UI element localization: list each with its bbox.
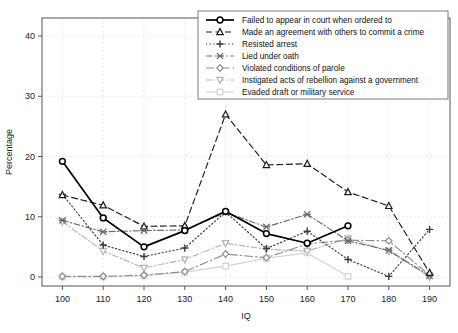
- series-2: [59, 191, 433, 280]
- data-point-marker: [345, 189, 351, 195]
- legend-label: Resisted arrest: [242, 40, 298, 49]
- data-point-marker: [217, 89, 223, 95]
- data-point-marker: [100, 202, 106, 208]
- chart-legend: Failed to appear in court when ordered t…: [198, 11, 448, 99]
- y-tick-label: 30: [25, 91, 35, 101]
- x-axis-title: IQ: [241, 311, 251, 321]
- series-line: [62, 194, 429, 276]
- x-tick-label: 120: [136, 294, 151, 304]
- x-tick-label: 100: [55, 294, 70, 304]
- legend-label: Failed to appear in court when ordered t…: [242, 16, 392, 25]
- data-point-marker: [264, 231, 270, 237]
- data-series-layer: [59, 111, 433, 280]
- data-point-marker: [223, 208, 229, 214]
- line-chart: 010203040100110120130140150160170180190I…: [0, 0, 458, 333]
- data-point-marker: [304, 240, 310, 246]
- legend-label: Evaded draft or military service: [242, 88, 355, 97]
- y-tick-label: 10: [25, 212, 35, 222]
- x-tick-label: 130: [177, 294, 192, 304]
- y-tick-label: 0: [30, 272, 35, 282]
- series-1: [59, 111, 433, 275]
- data-point-marker: [59, 192, 65, 198]
- x-tick-label: 170: [340, 294, 355, 304]
- data-point-marker: [182, 257, 188, 263]
- series-3: [59, 209, 433, 279]
- x-tick-label: 160: [300, 294, 315, 304]
- x-tick-label: 190: [422, 294, 437, 304]
- data-point-marker: [263, 224, 270, 230]
- data-point-marker: [140, 253, 147, 260]
- y-axis-title: Percentage: [4, 129, 14, 175]
- y-tick-label: 20: [25, 152, 35, 162]
- data-point-marker: [386, 203, 392, 209]
- data-point-marker: [141, 265, 147, 271]
- data-point-marker: [345, 223, 351, 229]
- data-point-marker: [100, 215, 106, 221]
- series-5: [59, 219, 433, 280]
- data-point-marker: [386, 237, 392, 244]
- data-point-marker: [100, 248, 106, 254]
- data-point-marker: [304, 160, 310, 166]
- chart-root: 010203040100110120130140150160170180190I…: [0, 0, 458, 333]
- data-point-marker: [141, 244, 147, 250]
- data-point-marker: [141, 223, 147, 229]
- x-tick-label: 110: [96, 294, 110, 304]
- series-line: [62, 114, 429, 272]
- data-point-marker: [222, 241, 228, 247]
- data-point-marker: [426, 269, 432, 275]
- data-point-marker: [223, 251, 229, 258]
- series-4: [59, 237, 432, 280]
- data-point-marker: [344, 256, 351, 263]
- legend-label: Made an agreement with others to commit …: [242, 28, 424, 37]
- y-tick-label: 40: [25, 31, 35, 41]
- data-point-marker: [60, 158, 66, 164]
- series-line: [62, 253, 348, 277]
- legend-label: Violated conditions of parole: [242, 64, 345, 73]
- legend-label: Instigated acts of rebellion against a g…: [242, 76, 419, 85]
- x-tick-label: 150: [259, 294, 274, 304]
- data-point-marker: [304, 228, 311, 235]
- data-point-marker: [345, 274, 351, 280]
- x-tick-label: 140: [218, 294, 233, 304]
- data-point-marker: [217, 17, 223, 23]
- x-tick-label: 180: [381, 294, 396, 304]
- data-point-marker: [100, 241, 107, 248]
- data-point-marker: [182, 228, 188, 234]
- legend-label: Lied under oath: [242, 52, 299, 61]
- data-point-marker: [223, 263, 229, 269]
- data-point-marker: [222, 111, 228, 117]
